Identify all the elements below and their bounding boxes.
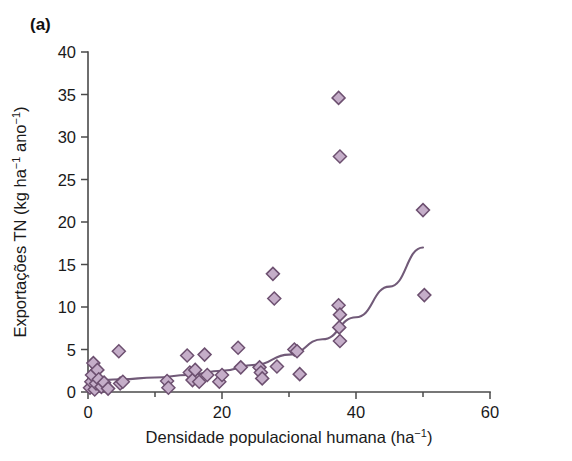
x-tick-label: 60 [481, 403, 499, 421]
y-tick-label: 10 [58, 298, 76, 316]
axis-title-segment: ano [11, 124, 29, 156]
axis-title-superscript: −1 [10, 112, 22, 125]
y-tick-label: 0 [67, 383, 76, 401]
axis-title-segment: ) [11, 106, 29, 112]
x-tick-label: 40 [347, 403, 365, 421]
y-axis-title: Exportações TN (kg ha−1 ano−1) [10, 106, 29, 337]
panel-label: (a) [30, 15, 51, 34]
axis-title-segment: Densidade populacional humana (ha [146, 428, 416, 446]
axis-title-segment: Exportações TN (kg ha [11, 168, 29, 337]
y-tick-label: 35 [58, 86, 76, 104]
y-tick-label: 30 [58, 128, 76, 146]
y-tick-label: 40 [58, 43, 76, 61]
y-tick-label: 15 [58, 256, 76, 274]
y-tick-label: 25 [58, 171, 76, 189]
svg-text:Exportações TN (kg ha−1 ano−1): Exportações TN (kg ha−1 ano−1) [10, 106, 29, 337]
y-tick-label: 5 [67, 341, 76, 359]
scatter-chart-figure: (a) 0510152025303540 0204060 Exportações… [0, 0, 572, 461]
x-tick-label: 0 [83, 403, 92, 421]
x-tick-label: 20 [213, 403, 231, 421]
axis-title-superscript: −1 [414, 427, 427, 439]
axis-title-superscript: −1 [10, 157, 22, 170]
x-axis-title: Densidade populacional humana (ha−1) [146, 427, 433, 446]
axis-title-segment: ) [427, 428, 433, 446]
y-tick-label: 20 [58, 213, 76, 231]
